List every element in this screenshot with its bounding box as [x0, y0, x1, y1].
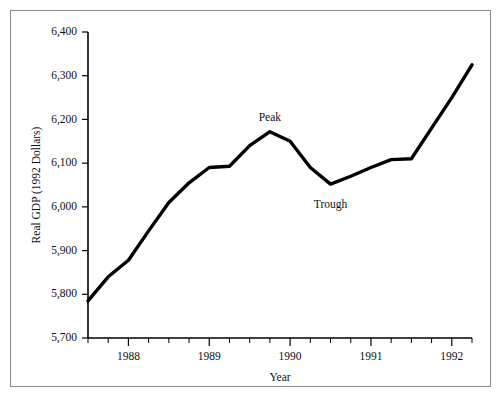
y-axis-ticks	[82, 32, 88, 338]
y-tick-label: 5,700	[51, 331, 77, 344]
x-axis-ticks	[88, 338, 472, 346]
data-series-group	[88, 65, 472, 301]
x-tick-label: 1990	[279, 350, 302, 362]
axes-lines	[88, 32, 472, 338]
y-tick-label: 6,400	[51, 25, 77, 38]
y-tick-label: 5,900	[51, 244, 77, 257]
annotation-peak: Peak	[259, 111, 282, 123]
x-tick-label: 1991	[359, 350, 382, 362]
x-axis-title: Year	[269, 371, 290, 383]
y-tick-label: 6,000	[51, 200, 77, 213]
x-tick-label: 1992	[440, 350, 463, 362]
figure-container: 6,4006,3006,2006,1006,0005,9005,8005,700…	[0, 0, 503, 400]
y-tick-label: 5,800	[51, 287, 77, 300]
y-axis-title: Real GDP (1992 Dollars)	[30, 126, 43, 243]
y-tick-label: 6,100	[51, 156, 77, 169]
y-tick-label: 6,200	[51, 113, 77, 126]
x-axis-tick-labels: 19881989199019911992	[117, 350, 464, 362]
chart-canvas: 6,4006,3006,2006,1006,0005,9005,8005,700…	[0, 0, 503, 400]
y-axis-tick-labels: 6,4006,3006,2006,1006,0005,9005,8005,700	[51, 25, 77, 344]
annotation-trough: Trough	[314, 198, 348, 211]
x-tick-label: 1989	[198, 350, 221, 362]
y-tick-label: 6,300	[51, 69, 77, 82]
line-series-real-gdp	[88, 65, 472, 301]
x-tick-label: 1988	[117, 350, 140, 362]
